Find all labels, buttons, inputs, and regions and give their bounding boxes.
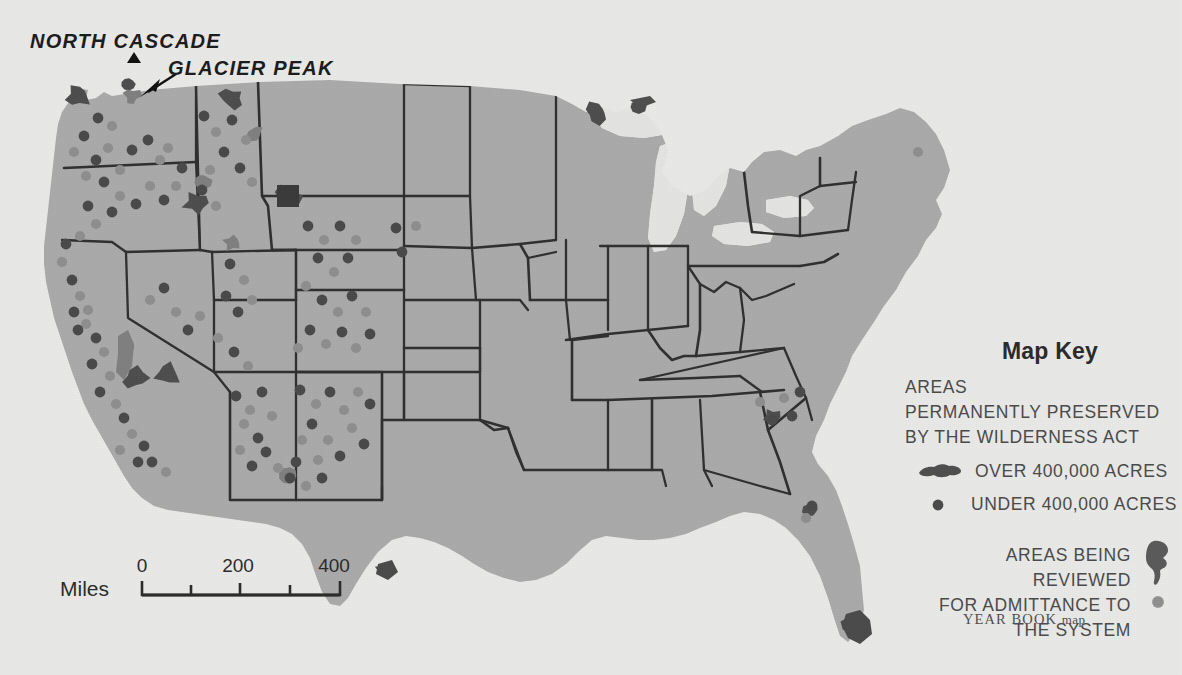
key-heading-line-1: AREAS (905, 375, 1177, 400)
review-dot-76 (235, 445, 245, 455)
review-dot-30 (241, 135, 251, 145)
wilderness-dot-112 (391, 223, 402, 234)
review-dot-24 (211, 127, 221, 137)
review-dot-54 (145, 295, 155, 305)
wilderness-dot-5 (91, 155, 102, 166)
wilderness-dot-0 (93, 113, 104, 124)
review-dot-105 (361, 307, 371, 317)
review-dot-8 (115, 165, 125, 175)
wilderness-dot-51 (133, 457, 144, 468)
wilderness-dot-86 (291, 457, 302, 468)
map-key-heading: AREAS PERMANENTLY PRESERVED BY THE WILDE… (905, 375, 1177, 450)
scale-bar: 0 200 400 Miles (60, 555, 344, 599)
wilderness-dot-108 (337, 327, 348, 338)
review-dot-80 (339, 405, 349, 415)
wilderness-dot-17 (131, 199, 142, 210)
review-dot-85 (313, 455, 323, 465)
review-dot-60 (239, 275, 249, 285)
review-dot-48 (115, 445, 125, 455)
review-dot-66 (243, 361, 253, 371)
wilderness-dot-110 (365, 329, 376, 340)
wilderness-dot-102 (317, 295, 328, 306)
wilderness-dot-35 (67, 275, 78, 286)
credit-line: YEAR BOOK map (963, 611, 1085, 628)
wilderness-blob-icon (905, 461, 975, 481)
wilderness-dot-2 (79, 131, 90, 142)
review-dot-36 (75, 291, 85, 301)
wilderness-dot-91 (285, 473, 296, 484)
review-dot-20 (171, 181, 181, 191)
review-dot-16 (75, 231, 85, 241)
review-dot-34 (57, 257, 67, 267)
wilderness-dot-59 (225, 259, 236, 270)
wilderness-dot-96 (335, 221, 346, 232)
review-dot-117 (779, 393, 789, 403)
review-dot-111 (293, 343, 303, 353)
review-dot-58 (195, 311, 205, 321)
review-dot-1 (107, 121, 117, 131)
review-dot-6 (81, 171, 91, 181)
key-entry-over: OVER 400,000 ACRES (905, 459, 1177, 484)
wilderness-dot-13 (83, 201, 94, 212)
review-dot-3 (103, 143, 113, 153)
wilderness-dot-31 (235, 163, 246, 174)
wilderness-dot-73 (261, 447, 272, 458)
map-key-title: Map Key (923, 338, 1177, 365)
wilderness-dot-57 (183, 325, 194, 336)
review-dot-12 (115, 191, 125, 201)
wilderness-dot-79 (325, 387, 336, 398)
wilderness-dot-65 (229, 347, 240, 358)
wilderness-dot-94 (303, 221, 314, 232)
wilderness-area-yellowstone-square (277, 185, 299, 207)
wilderness-dot-118 (795, 387, 806, 398)
review-dot-46 (127, 429, 137, 439)
review-dot-92 (301, 481, 311, 491)
review-dot-11 (155, 155, 165, 165)
wilderness-dot-120 (787, 411, 798, 422)
wilderness-dot-37 (69, 307, 80, 318)
review-dot-18 (145, 181, 155, 191)
review-dot-113 (411, 221, 421, 231)
key-label-over: OVER 400,000 ACRES (975, 459, 1168, 484)
review-dot-22 (163, 143, 173, 153)
scale-tick-200: 200 (222, 555, 254, 577)
wilderness-dot-45 (119, 413, 130, 424)
wilderness-dot-77 (295, 385, 306, 396)
review-dot-103 (333, 307, 343, 317)
wilderness-dot-90 (359, 439, 370, 450)
wilderness-dot-33 (61, 239, 72, 250)
wilderness-dot-69 (257, 387, 268, 398)
wilderness-dot-43 (95, 387, 106, 398)
wilderness-dot-29 (227, 115, 238, 126)
review-dot-44 (111, 399, 121, 409)
review-dot-119 (913, 147, 923, 157)
wilderness-dot-25 (219, 147, 230, 158)
wilderness-dot-47 (139, 441, 150, 452)
review-dot-72 (267, 411, 277, 421)
review-dot-115 (755, 397, 765, 407)
wilderness-dot-7 (99, 177, 110, 188)
scale-tick-labels: 0 200 400 (138, 555, 338, 577)
wilderness-dot-104 (347, 291, 358, 302)
key-label-under: UNDER 400,000 ACRES (971, 492, 1177, 517)
map-page: NORTH CASCADE GLACIER PEAK 0 200 400 Mil… (0, 0, 1182, 675)
wilderness-dot-121 (807, 501, 818, 512)
wilderness-dot-100 (343, 253, 354, 264)
wilderness-dot-21 (177, 163, 188, 174)
review-dot-56 (171, 307, 181, 317)
review-dot-32 (247, 177, 257, 187)
review-dot-64 (213, 333, 223, 343)
review-dot-107 (321, 339, 331, 349)
wilderness-dot-61 (221, 291, 232, 302)
wilderness-dot-88 (365, 399, 376, 410)
wilderness-dot-114 (397, 247, 408, 258)
scale-tick-400: 400 (318, 555, 350, 577)
wilderness-dot-41 (87, 359, 98, 370)
wilderness-dot-93 (317, 473, 328, 484)
review-dot-89 (347, 423, 357, 433)
wilderness-dot-116 (767, 415, 778, 426)
wilderness-dot-98 (313, 253, 324, 264)
review-dot-50 (161, 467, 171, 477)
wilderness-dot-9 (127, 145, 138, 156)
review-dot-28 (211, 201, 221, 211)
